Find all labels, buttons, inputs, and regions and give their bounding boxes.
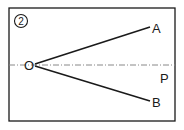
- figure-number: 2: [15, 15, 28, 28]
- point-label-p: P: [160, 71, 169, 86]
- point-label-o: O: [24, 58, 34, 73]
- ray-ob: [35, 66, 150, 101]
- angle-diagram: 2 O A B P: [0, 0, 184, 130]
- ray-oa: [35, 27, 150, 64]
- point-label-a: A: [152, 21, 161, 36]
- point-label-b: B: [152, 95, 161, 110]
- figure-number-label: 2: [18, 16, 24, 27]
